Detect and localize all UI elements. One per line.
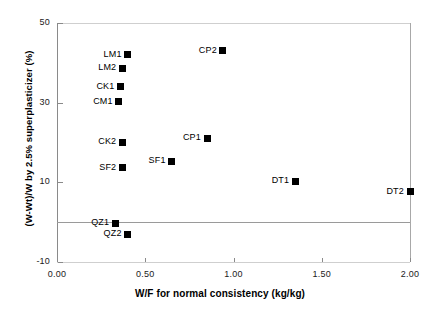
plot-frame-bottom [57,262,410,263]
data-point-label: CP2 [187,46,217,55]
data-point [112,220,119,227]
x-tick-label: 2.00 [392,270,428,279]
y-axis-title: (W-Wt)/W by 2.5% superplasticizer (%) [23,19,34,259]
data-point-label: LM2 [86,63,116,72]
x-tick-label: 0.00 [39,270,75,279]
data-point-label: SF1 [136,156,166,165]
data-point [292,178,299,185]
data-point-label: QZ1 [79,218,109,227]
x-tick-label: 1.00 [216,270,252,279]
plot-frame-right [410,23,411,262]
data-point-label: CM1 [83,97,113,106]
data-point [115,98,122,105]
x-tick-mark [410,258,411,262]
data-point [219,47,226,54]
data-point-label: CK2 [86,137,116,146]
data-point-label: DT1 [259,176,289,185]
x-tick-label: 0.50 [127,270,163,279]
data-point [119,65,126,72]
data-point [119,164,126,171]
x-tick-label: 1.50 [304,270,340,279]
data-point [204,135,211,142]
chart-figure: 503010-10 0.000.501.001.502.00 W/F for n… [0,0,440,313]
data-point [124,51,131,58]
x-axis-title: W/F for normal consistency (kg/kg) [0,288,440,299]
data-point [119,139,126,146]
data-point-label: DT2 [374,187,404,196]
data-point-label: CK1 [85,82,115,91]
data-point [124,231,131,238]
data-point-label: QZ2 [92,229,122,238]
data-point [407,188,414,195]
data-point [117,83,124,90]
y-tick-mark [58,262,63,263]
data-point [168,158,175,165]
data-point-label: LM1 [92,50,122,59]
data-point-label: CP1 [171,133,201,142]
data-point-label: SF2 [86,163,116,172]
